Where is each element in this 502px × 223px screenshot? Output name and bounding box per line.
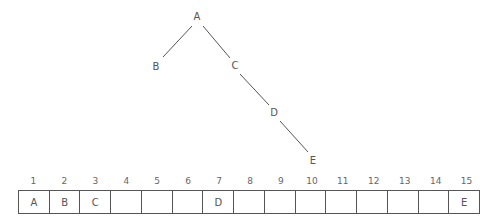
array-cell: E [449, 191, 479, 213]
array-index: 6 [173, 175, 204, 187]
array-cell [388, 191, 419, 213]
array-cell: D [203, 191, 234, 213]
edge-a-b [163, 26, 192, 57]
array-cell: C [80, 191, 111, 213]
edge-c-d [240, 74, 269, 105]
array-cell [142, 191, 173, 213]
tree-node-e: E [310, 156, 316, 166]
tree-node-b: B [153, 62, 160, 72]
array-index-row: 1 2 3 4 5 6 7 8 9 10 11 12 13 14 15 [18, 175, 482, 187]
array-cell [265, 191, 296, 213]
array-index: 14 [420, 175, 451, 187]
array-index: 7 [204, 175, 235, 187]
array-index: 11 [327, 175, 358, 187]
array-index: 12 [358, 175, 389, 187]
array-cell [173, 191, 204, 213]
array-cell [234, 191, 265, 213]
array-cell [326, 191, 357, 213]
array-cell [419, 191, 450, 213]
tree-node-d: D [270, 108, 278, 118]
array-index: 15 [451, 175, 482, 187]
array-index: 2 [49, 175, 80, 187]
array-cell [111, 191, 142, 213]
array-index: 5 [142, 175, 173, 187]
tree-node-a: A [194, 12, 201, 22]
array-representation: A B C D E [18, 190, 480, 214]
array-index: 4 [111, 175, 142, 187]
array-index: 10 [296, 175, 327, 187]
edge-d-e [280, 121, 308, 152]
edge-a-c [203, 26, 230, 58]
tree-node-c: C [232, 61, 239, 71]
array-cell: A [19, 191, 50, 213]
array-index: 3 [80, 175, 111, 187]
array-index: 1 [18, 175, 49, 187]
array-index: 8 [235, 175, 266, 187]
array-index: 9 [266, 175, 297, 187]
array-index: 13 [389, 175, 420, 187]
array-cell [296, 191, 327, 213]
array-cell: B [50, 191, 81, 213]
array-cell [357, 191, 388, 213]
